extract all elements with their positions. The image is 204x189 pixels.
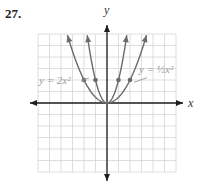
curve-arrow-icon xyxy=(67,35,73,43)
curve-arrow-icon xyxy=(142,35,148,43)
marked-point xyxy=(116,78,121,83)
x-axis-arrow-left-icon xyxy=(30,100,37,106)
x-axis-arrow-right-icon xyxy=(176,100,183,106)
label-y-2x2: y = 2x² xyxy=(38,74,71,86)
curve-arrow-icon xyxy=(123,35,129,42)
marked-point xyxy=(128,78,133,83)
x-axis-label: x xyxy=(187,96,194,110)
y-axis-arrow-up-icon xyxy=(104,25,110,32)
marked-point xyxy=(93,78,98,83)
y-axis-arrow-down-icon xyxy=(104,174,110,181)
parabola-graph: xyy = 2x²y = ½x² xyxy=(0,0,204,189)
label-y-half-x2: y = ½x² xyxy=(138,63,174,75)
y-axis-label: y xyxy=(103,3,110,17)
curve-arrow-icon xyxy=(85,35,91,42)
